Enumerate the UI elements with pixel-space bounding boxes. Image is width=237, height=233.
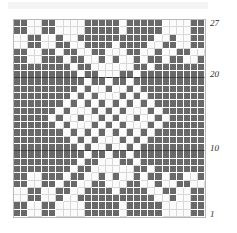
chart-cell[interactable] <box>198 129 205 136</box>
chart-cell[interactable] <box>85 42 92 49</box>
chart-cell[interactable] <box>42 122 49 129</box>
chart-cell[interactable] <box>42 202 49 209</box>
chart-cell[interactable] <box>134 137 141 144</box>
chart-cell[interactable] <box>78 195 85 202</box>
chart-cell[interactable] <box>113 100 120 107</box>
chart-cell[interactable] <box>155 122 162 129</box>
chart-cell[interactable] <box>127 71 134 78</box>
chart-cell[interactable] <box>71 100 78 107</box>
chart-cell[interactable] <box>170 100 177 107</box>
chart-cell[interactable] <box>177 86 184 93</box>
chart-cell[interactable] <box>113 181 120 188</box>
chart-cell[interactable] <box>99 64 106 71</box>
chart-cell[interactable] <box>35 93 42 100</box>
chart-cell[interactable] <box>163 42 170 49</box>
chart-cell[interactable] <box>21 144 28 151</box>
chart-cell[interactable] <box>113 42 120 49</box>
chart-cell[interactable] <box>56 71 63 78</box>
chart-cell[interactable] <box>99 151 106 158</box>
chart-cell[interactable] <box>198 144 205 151</box>
chart-cell[interactable] <box>71 108 78 115</box>
chart-cell[interactable] <box>64 71 71 78</box>
chart-cell[interactable] <box>42 49 49 56</box>
chart-cell[interactable] <box>163 108 170 115</box>
chart-cell[interactable] <box>127 78 134 85</box>
chart-cell[interactable] <box>148 35 155 42</box>
chart-cell[interactable] <box>155 108 162 115</box>
chart-cell[interactable] <box>141 115 148 122</box>
chart-cell[interactable] <box>141 210 148 217</box>
chart-cell[interactable] <box>134 173 141 180</box>
chart-cell[interactable] <box>163 64 170 71</box>
chart-cell[interactable] <box>113 115 120 122</box>
chart-cell[interactable] <box>78 100 85 107</box>
chart-cell[interactable] <box>148 210 155 217</box>
chart-cell[interactable] <box>14 188 21 195</box>
chart-cell[interactable] <box>106 137 113 144</box>
chart-cell[interactable] <box>71 210 78 217</box>
chart-cell[interactable] <box>148 195 155 202</box>
chart-cell[interactable] <box>163 56 170 63</box>
chart-cell[interactable] <box>113 122 120 129</box>
chart-cell[interactable] <box>163 151 170 158</box>
chart-cell[interactable] <box>120 49 127 56</box>
chart-cell[interactable] <box>35 71 42 78</box>
chart-cell[interactable] <box>198 151 205 158</box>
chart-cell[interactable] <box>28 93 35 100</box>
chart-cell[interactable] <box>21 56 28 63</box>
chart-cell[interactable] <box>134 108 141 115</box>
chart-cell[interactable] <box>85 144 92 151</box>
chart-cell[interactable] <box>28 20 35 27</box>
chart-cell[interactable] <box>21 71 28 78</box>
chart-cell[interactable] <box>14 93 21 100</box>
chart-cell[interactable] <box>155 78 162 85</box>
stitch-chart-grid[interactable] <box>13 19 206 218</box>
chart-cell[interactable] <box>64 202 71 209</box>
chart-cell[interactable] <box>99 115 106 122</box>
chart-cell[interactable] <box>198 166 205 173</box>
chart-cell[interactable] <box>21 181 28 188</box>
chart-cell[interactable] <box>120 56 127 63</box>
chart-cell[interactable] <box>163 144 170 151</box>
chart-cell[interactable] <box>42 71 49 78</box>
chart-cell[interactable] <box>198 56 205 63</box>
chart-cell[interactable] <box>191 64 198 71</box>
chart-cell[interactable] <box>120 181 127 188</box>
chart-cell[interactable] <box>198 181 205 188</box>
chart-cell[interactable] <box>198 20 205 27</box>
chart-cell[interactable] <box>127 159 134 166</box>
chart-cell[interactable] <box>14 195 21 202</box>
chart-cell[interactable] <box>64 115 71 122</box>
chart-cell[interactable] <box>163 122 170 129</box>
chart-cell[interactable] <box>120 202 127 209</box>
chart-cell[interactable] <box>113 64 120 71</box>
chart-cell[interactable] <box>170 181 177 188</box>
chart-cell[interactable] <box>78 181 85 188</box>
chart-cell[interactable] <box>64 122 71 129</box>
chart-cell[interactable] <box>42 210 49 217</box>
chart-cell[interactable] <box>85 129 92 136</box>
chart-cell[interactable] <box>64 27 71 34</box>
chart-cell[interactable] <box>106 173 113 180</box>
chart-cell[interactable] <box>155 56 162 63</box>
chart-cell[interactable] <box>191 115 198 122</box>
chart-cell[interactable] <box>163 71 170 78</box>
chart-cell[interactable] <box>14 71 21 78</box>
chart-cell[interactable] <box>120 159 127 166</box>
chart-cell[interactable] <box>28 49 35 56</box>
chart-cell[interactable] <box>198 137 205 144</box>
chart-cell[interactable] <box>35 115 42 122</box>
chart-cell[interactable] <box>78 64 85 71</box>
chart-cell[interactable] <box>134 100 141 107</box>
chart-cell[interactable] <box>106 93 113 100</box>
chart-cell[interactable] <box>56 115 63 122</box>
chart-cell[interactable] <box>191 210 198 217</box>
chart-cell[interactable] <box>28 144 35 151</box>
chart-cell[interactable] <box>177 129 184 136</box>
chart-cell[interactable] <box>71 173 78 180</box>
chart-cell[interactable] <box>56 100 63 107</box>
chart-cell[interactable] <box>49 137 56 144</box>
chart-cell[interactable] <box>191 202 198 209</box>
chart-cell[interactable] <box>134 71 141 78</box>
chart-cell[interactable] <box>99 195 106 202</box>
